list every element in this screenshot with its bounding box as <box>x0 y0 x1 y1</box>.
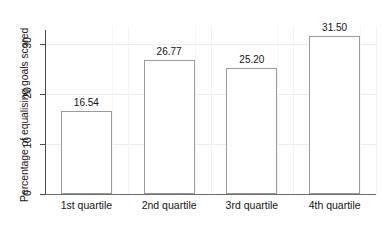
bar-value-label: 31.50 <box>305 22 365 33</box>
bar <box>144 60 195 194</box>
y-tick-mark <box>40 94 45 95</box>
bar-value-label: 25.20 <box>222 54 282 65</box>
x-axis-line <box>45 194 376 195</box>
gridline-vertical <box>376 26 377 194</box>
x-axis-label: 3rd quartile <box>207 199 297 211</box>
bar-value-label: 16.54 <box>56 97 116 108</box>
gridline-vertical <box>211 26 212 194</box>
y-tick-label: 30 <box>21 32 33 54</box>
gridline-vertical <box>112 26 113 194</box>
y-tick-label: 20 <box>21 82 33 104</box>
x-axis-label: 1st quartile <box>41 199 131 211</box>
bar <box>61 111 112 194</box>
gridline-vertical <box>277 26 278 194</box>
y-axis-line <box>45 30 46 195</box>
y-tick-label: 10 <box>21 132 33 154</box>
y-tick-mark <box>40 194 45 195</box>
gridline-vertical <box>128 26 129 194</box>
y-tick-label: 0 <box>21 182 33 204</box>
y-tick-mark <box>40 144 45 145</box>
x-axis-label: 4th quartile <box>290 199 380 211</box>
gridline-vertical <box>293 26 294 194</box>
x-axis-label: 2nd quartile <box>124 199 214 211</box>
bar-value-label: 26.77 <box>139 46 199 57</box>
bar <box>309 36 360 194</box>
y-tick-mark <box>40 44 45 45</box>
bar-chart: Percentage of equalising goals scored 01… <box>0 0 382 228</box>
bar <box>226 68 277 194</box>
gridline-vertical <box>360 26 361 194</box>
